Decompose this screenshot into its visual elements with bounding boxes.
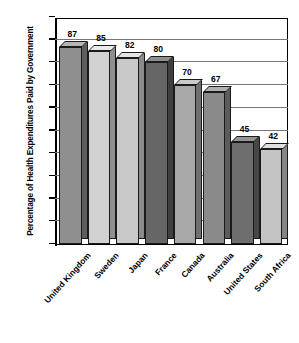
y-tick-mark (49, 129, 55, 130)
y-tick-mark (49, 243, 55, 244)
bar (116, 58, 139, 244)
bar-front-face (145, 62, 168, 244)
y-axis-title: Percentage of Health Expenditures Paid b… (24, 6, 38, 256)
bar (260, 149, 283, 244)
bar (145, 62, 168, 244)
bar-value-label: 42 (258, 132, 289, 141)
bar-chart: Percentage of Health Expenditures Paid b… (0, 0, 299, 343)
bar-value-label: 67 (201, 75, 232, 84)
bar-value-label: 82 (114, 41, 145, 50)
bar-value-label: 87 (57, 30, 88, 39)
y-tick-mark (49, 16, 55, 17)
y-tick-mark (49, 61, 55, 62)
bar (203, 92, 226, 244)
bar-front-face (174, 85, 197, 244)
bar (231, 142, 254, 244)
y-tick-mark (49, 220, 55, 221)
bar-side-face (139, 53, 145, 239)
y-tick-mark (49, 38, 55, 39)
bar-side-face (82, 42, 88, 239)
bar-front-face (116, 58, 139, 244)
bar-side-face (282, 144, 288, 239)
bar-front-face (59, 47, 82, 244)
bar-front-face (203, 92, 226, 244)
bar-side-face (196, 80, 202, 239)
bar (174, 85, 197, 244)
y-tick-mark (49, 175, 55, 176)
bar-front-face (88, 51, 111, 244)
bar (88, 51, 111, 244)
bar-side-face (225, 87, 231, 239)
y-tick-mark (49, 197, 55, 198)
plot-area: 0102030405060708090100 8785828070674542 (55, 18, 288, 245)
bar-front-face (260, 149, 283, 244)
y-tick-mark (49, 106, 55, 107)
y-tick-mark (49, 84, 55, 85)
bar-value-label: 85 (86, 34, 117, 43)
bar (59, 47, 82, 244)
bar-value-label: 70 (172, 68, 203, 77)
bar-value-label: 45 (229, 125, 260, 134)
bar-side-face (110, 46, 116, 239)
bar-value-label: 80 (143, 45, 174, 54)
y-tick-mark (49, 152, 55, 153)
bar-front-face (231, 142, 254, 244)
bar-side-face (254, 137, 260, 239)
